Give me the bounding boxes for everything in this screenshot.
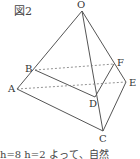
vertex-label-D: D bbox=[89, 99, 97, 109]
caption-text: h=8 h=2 よって、自然 bbox=[0, 146, 109, 159]
pyramid-diagram bbox=[0, 0, 140, 159]
edge-EC bbox=[103, 82, 126, 131]
edge-FD bbox=[95, 64, 114, 97]
edge-OC bbox=[82, 11, 103, 131]
vertex-label-O: O bbox=[77, 0, 85, 10]
vertex-label-B: B bbox=[25, 64, 32, 74]
dashed-AE bbox=[17, 82, 126, 89]
vertex-label-A: A bbox=[8, 84, 15, 94]
vertex-label-E: E bbox=[129, 78, 136, 88]
dashed-BF bbox=[35, 64, 114, 70]
edge-BD bbox=[35, 70, 95, 97]
vertex-label-C: C bbox=[99, 134, 107, 144]
edge-OA bbox=[17, 11, 82, 89]
vertex-label-F: F bbox=[117, 58, 124, 68]
